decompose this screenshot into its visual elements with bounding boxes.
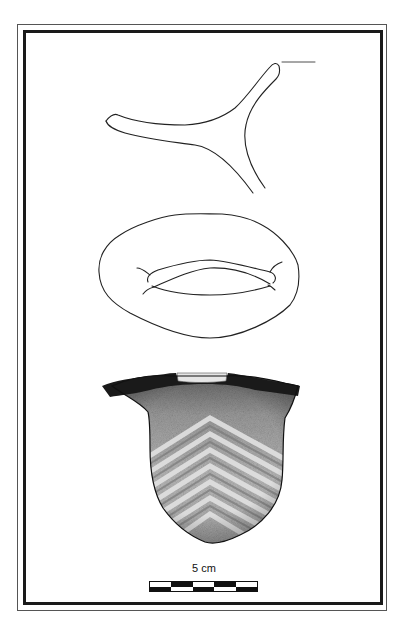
scale-segment <box>171 587 192 592</box>
top-view-outline <box>106 62 315 193</box>
scale-segment <box>150 587 171 592</box>
scale-segment <box>236 587 257 592</box>
scale-bar <box>149 581 258 592</box>
plan-view-outline <box>99 214 299 338</box>
scale-bar-label: 5 cm <box>149 562 259 574</box>
profile-view <box>100 370 310 556</box>
scale-segment <box>214 587 235 592</box>
scale-segment <box>193 587 214 592</box>
archaeological-drawing <box>0 0 406 625</box>
